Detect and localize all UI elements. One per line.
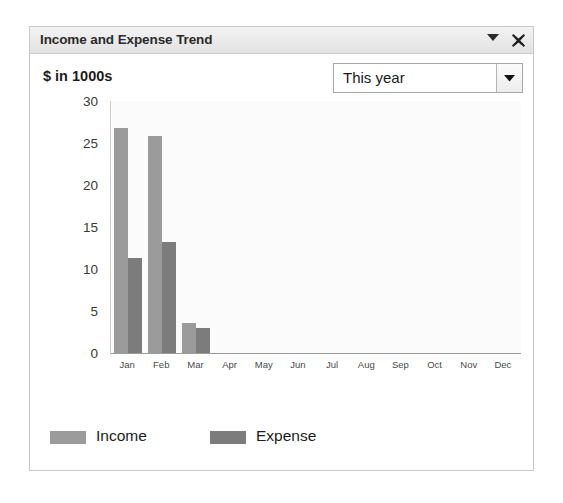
bar-income[interactable]: [114, 128, 128, 353]
legend-label: Expense: [256, 427, 316, 445]
bar-group: [422, 101, 450, 353]
bar-group: [353, 101, 381, 353]
bar-group: [285, 101, 313, 353]
widget-subheader: $ in 1000s This year: [30, 54, 533, 101]
legend-swatch: [210, 431, 246, 444]
x-axis-tick: Dec: [486, 359, 520, 370]
legend-swatch: [50, 431, 86, 444]
x-axis-tick: May: [247, 359, 281, 370]
x-axis-tick: Aug: [349, 359, 383, 370]
y-axis-tick: 5: [90, 304, 98, 319]
income-expense-widget: Income and Expense Trend $ in 1000s This…: [29, 26, 534, 471]
plot-area: [110, 101, 521, 354]
bar-group: [114, 101, 142, 353]
x-axis-labels: JanFebMarAprMayJunJulAugSepOctNovDec: [110, 357, 520, 377]
bar-group: [182, 101, 210, 353]
y-axis-tick: 30: [83, 94, 98, 109]
x-axis-tick: Apr: [213, 359, 247, 370]
x-axis-tick: Nov: [452, 359, 486, 370]
bar-group: [490, 101, 518, 353]
bar-income[interactable]: [182, 323, 196, 353]
y-axis-tick: 10: [83, 262, 98, 277]
bar-expense[interactable]: [196, 328, 210, 353]
period-select[interactable]: This year: [333, 63, 523, 93]
bar-income[interactable]: [148, 136, 162, 353]
period-selected-value: This year: [343, 69, 405, 86]
bar-group: [251, 101, 279, 353]
y-axis-labels: 051015202530: [30, 101, 108, 361]
x-axis-tick: Jan: [110, 359, 144, 370]
bar-group: [148, 101, 176, 353]
x-axis-tick: Jul: [315, 359, 349, 370]
bar-group: [456, 101, 484, 353]
legend-label: Income: [96, 427, 147, 445]
chart-plot: 051015202530 JanFebMarAprMayJunJulAugSep…: [30, 101, 533, 431]
y-axis-tick: 25: [83, 136, 98, 151]
bar-expense[interactable]: [162, 242, 176, 353]
bar-group: [217, 101, 245, 353]
triangle-down-icon[interactable]: [496, 64, 522, 92]
widget-title-bar: Income and Expense Trend: [30, 27, 533, 54]
x-axis-tick: Oct: [418, 359, 452, 370]
close-icon[interactable]: [508, 30, 528, 50]
chevron-down-icon[interactable]: [483, 30, 503, 50]
x-axis-tick: Jun: [281, 359, 315, 370]
bar-group: [319, 101, 347, 353]
y-axis-tick: 0: [90, 346, 98, 361]
y-axis-tick: 15: [83, 220, 98, 235]
x-axis-tick: Feb: [144, 359, 178, 370]
widget-title: Income and Expense Trend: [40, 32, 212, 47]
x-axis-tick: Sep: [383, 359, 417, 370]
y-axis-tick: 20: [83, 178, 98, 193]
x-axis-tick: Mar: [178, 359, 212, 370]
bar-group: [387, 101, 415, 353]
bar-expense[interactable]: [128, 258, 142, 353]
units-label: $ in 1000s: [43, 68, 112, 84]
